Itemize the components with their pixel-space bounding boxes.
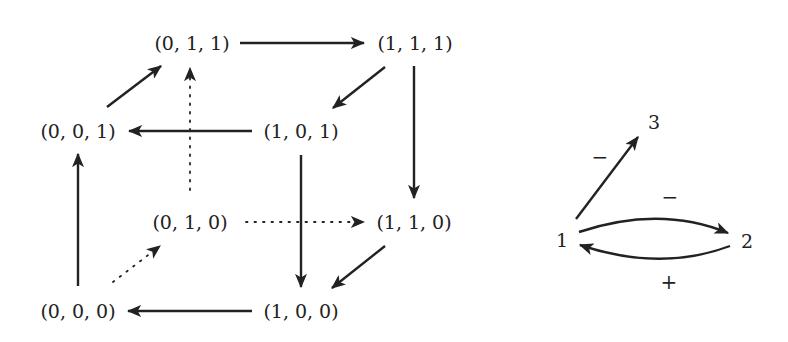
node-111: (1, 1, 1) (377, 32, 452, 54)
node-011: (0, 1, 1) (154, 32, 229, 54)
edge-sign-1-to-3: − (592, 145, 609, 169)
cube-edges (78, 43, 414, 311)
edge-001-to-011 (107, 66, 161, 107)
edge-sign-1-to-2: − (662, 185, 679, 209)
node-100: (1, 0, 0) (263, 300, 338, 322)
edge-111-to-101 (333, 67, 385, 108)
edge-000-to-010-dotted (113, 246, 160, 282)
graph-node-2: 2 (741, 230, 753, 252)
node-000: (0, 0, 0) (40, 300, 115, 322)
node-001: (0, 0, 1) (40, 120, 115, 142)
edge-1-to-2 (579, 219, 728, 233)
interaction-graph: 1 2 3 − − + (556, 111, 753, 294)
node-010: (0, 1, 0) (152, 211, 227, 233)
edge-2-to-1 (580, 245, 730, 259)
graph-node-3: 3 (648, 111, 660, 133)
diagram-canvas: (0, 1, 1) (1, 1, 1) (0, 0, 1) (1, 0, 1) … (0, 0, 788, 342)
node-101: (1, 0, 1) (263, 120, 338, 142)
cube-nodes: (0, 1, 1) (1, 1, 1) (0, 0, 1) (1, 0, 1) … (40, 28, 452, 322)
graph-node-1: 1 (556, 229, 568, 251)
edge-sign-2-to-1: + (661, 270, 678, 294)
edge-110-to-100 (332, 246, 385, 288)
node-110: (1, 1, 0) (376, 211, 451, 233)
